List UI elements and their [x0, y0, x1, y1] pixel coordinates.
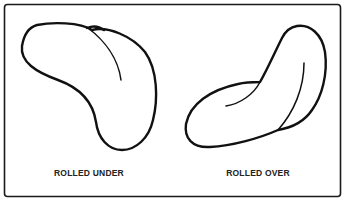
rolled-under-inner-curve: [88, 28, 121, 80]
rolled-over-inner-curve: [278, 63, 304, 130]
caption-rolled-under: ROLLED UNDER: [54, 168, 124, 178]
tongue-rolling-diagram: ROLLED UNDER ROLLED OVER: [0, 0, 344, 202]
rolled-over-illustration: [186, 26, 326, 147]
rolled-over-outline: [186, 26, 326, 147]
diagram-canvas: [0, 0, 344, 202]
rolled-under-illustration: [22, 23, 156, 150]
rolled-under-outline: [22, 23, 156, 150]
caption-rolled-over: ROLLED OVER: [226, 168, 290, 178]
